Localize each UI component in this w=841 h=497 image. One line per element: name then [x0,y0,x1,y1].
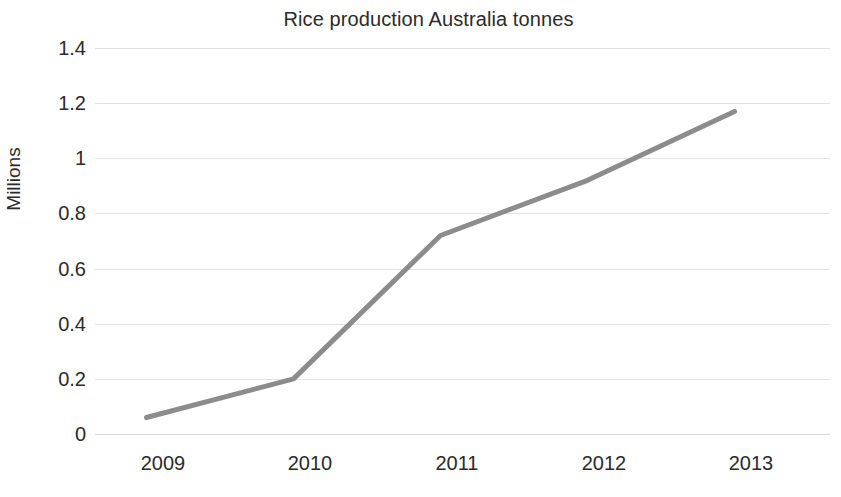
gridline [95,158,830,159]
chart-container: Rice production Australia tonnes Million… [0,0,841,497]
y-tick-label: 1 [8,148,86,168]
gridline [95,324,830,325]
plot-area [95,48,830,434]
gridline [95,213,830,214]
chart-title: Rice production Australia tonnes [0,8,841,31]
x-tick-label: 2009 [103,452,223,474]
x-tick-label: 2013 [691,452,811,474]
gridline [95,48,830,49]
x-tick-label: 2012 [544,452,664,474]
gridline [95,379,830,380]
x-axis-tick-labels: 2009 2010 2011 2012 2013 [95,452,830,482]
gridline [95,103,830,104]
y-tick-label: 0.8 [8,203,86,223]
x-axis-line [95,434,830,435]
y-tick-label: 0 [8,424,86,444]
y-tick-label: 0.2 [8,369,86,389]
x-tick-label: 2011 [397,452,517,474]
y-axis-tick-labels: 1.4 1.2 1 0.8 0.6 0.4 0.2 0 [0,0,86,497]
y-tick-label: 0.4 [8,314,86,334]
x-tick-label: 2010 [250,452,370,474]
y-tick-label: 1.2 [8,93,86,113]
gridline [95,269,830,270]
y-tick-label: 1.4 [8,38,86,58]
y-tick-label: 0.6 [8,259,86,279]
